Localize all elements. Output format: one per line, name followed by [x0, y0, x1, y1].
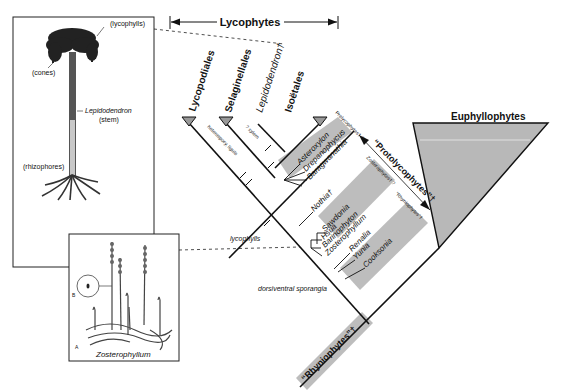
zosterophyllum-inset: B A Zosterophyllum: [69, 234, 179, 361]
label-stem: (stem): [99, 116, 119, 124]
clade-lycopodiales: Lycopodiales: [186, 48, 216, 112]
char-xylem: ? xylem: [244, 123, 260, 139]
tip-lycopodiales: [182, 117, 196, 126]
phylogeny-diagram: (lycophylls) (cones) Lepidodendron (stem…: [0, 0, 565, 392]
inset-frame: [13, 17, 154, 267]
clade-selaginellales: Selaginellales: [222, 47, 253, 114]
leader-lepidodendron: [154, 29, 284, 44]
clade-rhyniophytes: “Rhyniophytes”†: [299, 324, 358, 383]
euphyllophytes-clade: [413, 123, 548, 248]
euphyllophytes-label: Euphyllophytes: [451, 111, 526, 122]
lepidodendron-inset: (lycophylls) (cones) Lepidodendron (stem…: [13, 17, 154, 267]
char-lycophylls: lycophylls: [230, 235, 261, 243]
label-lepidodendron-inset: Lepidodendron: [85, 107, 132, 115]
label-cones: (cones): [32, 69, 55, 77]
label-lycophylls-inset: (lycophylls): [110, 20, 145, 28]
label-rhizophores: (rhizophores): [23, 163, 64, 171]
tip-selaginellales: [219, 117, 233, 126]
char-heterospory: heterospory, ligule: [206, 123, 239, 156]
clade-lepidodendron: Lepidodendron†: [253, 41, 286, 114]
diagram-canvas: (lycophylls) (cones) Lepidodendron (stem…: [0, 0, 565, 392]
label-zosterophyllum-inset: Zosterophyllum: [95, 350, 151, 359]
clade-isoetales: Isoëtales: [282, 69, 306, 114]
tip-isoetales: [313, 117, 327, 126]
char-dorsiventral: dorsiventral sporangia: [258, 285, 327, 293]
lycophytes-bracket: Lycophytes: [170, 16, 338, 29]
lycophytes-label: Lycophytes: [220, 16, 281, 28]
